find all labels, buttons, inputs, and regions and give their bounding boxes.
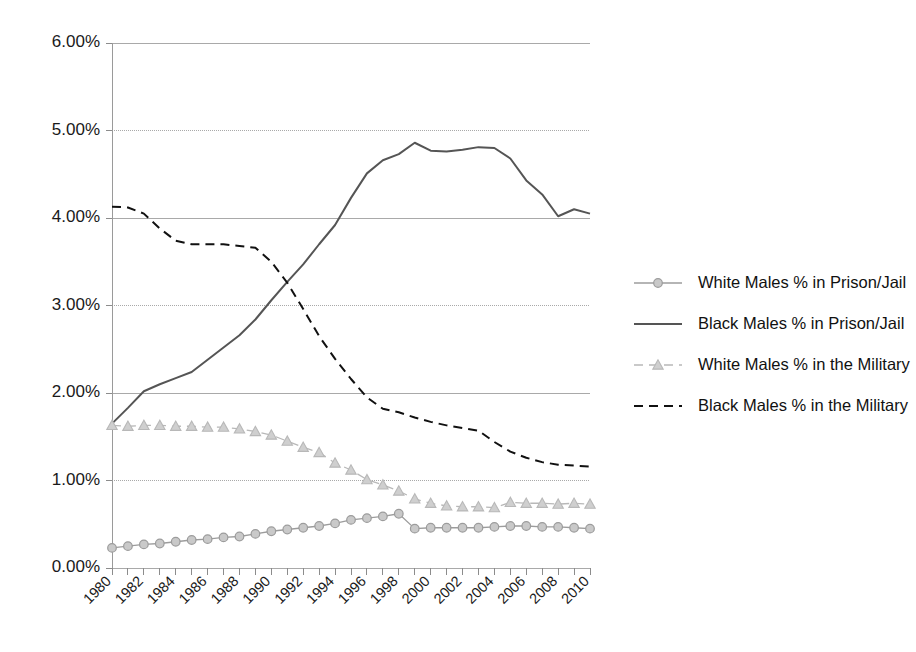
series-2 [107, 420, 595, 512]
data-point-marker [570, 523, 579, 532]
x-axis-tick-label: 2004 [462, 573, 496, 607]
data-point-marker [124, 542, 133, 551]
x-axis-tick-label: 1980 [80, 573, 114, 607]
data-point-marker [426, 523, 435, 532]
chart-legend: White Males % in Prison/JailBlack Males … [634, 273, 911, 414]
series-line [112, 143, 590, 424]
legend-item-2[interactable]: White Males % in the Military [634, 355, 911, 373]
x-axis-tick-label: 1996 [335, 573, 369, 607]
data-point-marker [395, 509, 404, 518]
data-point-marker [586, 524, 595, 533]
x-axis-tick-label: 2002 [431, 573, 465, 607]
x-axis-tick-label: 2010 [558, 573, 592, 607]
data-point-marker [282, 436, 292, 445]
series-1 [112, 143, 590, 424]
legend-label: Black Males % in Prison/Jail [698, 314, 904, 332]
data-point-marker [314, 447, 324, 456]
data-point-marker [654, 279, 663, 288]
data-point-marker [315, 522, 324, 531]
data-point-marker [522, 522, 531, 531]
data-point-marker [505, 497, 515, 506]
x-axis-tick-label: 2006 [494, 573, 528, 607]
data-point-marker [107, 420, 117, 429]
series-line [112, 207, 590, 467]
legend-item-1[interactable]: Black Males % in Prison/Jail [634, 314, 904, 332]
data-point-marker [140, 540, 149, 549]
x-axis-tick-label: 1992 [271, 573, 305, 607]
data-point-marker [251, 530, 260, 539]
data-point-marker [378, 480, 388, 489]
series-0 [108, 509, 595, 552]
y-axis-tick-label: 2.00% [52, 382, 100, 401]
data-point-marker [187, 536, 196, 545]
data-point-marker [538, 523, 547, 532]
data-point-marker [554, 523, 563, 532]
data-point-marker [569, 498, 579, 507]
data-point-marker [108, 544, 117, 553]
x-axis-tick-label: 1990 [239, 573, 273, 607]
data-point-marker [394, 486, 404, 495]
x-axis-tick-label: 2008 [526, 573, 560, 607]
y-axis-tick-label: 5.00% [52, 120, 100, 139]
y-axis-tick-label: 0.00% [52, 557, 100, 576]
y-axis-ticks [106, 43, 112, 568]
data-point-marker [298, 442, 308, 451]
series-3 [112, 207, 590, 467]
data-point-marker [155, 420, 165, 429]
data-point-marker [267, 527, 276, 536]
x-axis-tick-label: 1984 [144, 573, 178, 607]
data-point-marker [506, 522, 515, 531]
legend-label: Black Males % in the Military [698, 396, 909, 414]
data-point-marker [347, 516, 356, 525]
data-point-marker [474, 523, 483, 532]
data-series [107, 143, 595, 552]
data-point-marker [156, 539, 165, 548]
line-chart: 0.00%1.00%2.00%3.00%4.00%5.00%6.00% 1980… [0, 0, 916, 652]
data-point-marker [410, 494, 420, 503]
data-point-marker [283, 525, 292, 534]
x-axis-ticks [112, 568, 590, 575]
x-axis-labels: 1980198219841986198819901992199419961998… [80, 573, 592, 607]
data-point-marker [346, 465, 356, 474]
y-axis-tick-label: 4.00% [52, 207, 100, 226]
data-point-marker [235, 532, 244, 541]
data-point-marker [331, 519, 340, 528]
legend-label: White Males % in the Military [698, 355, 911, 373]
x-axis-tick-label: 1986 [176, 573, 210, 607]
data-point-marker [379, 512, 388, 521]
data-point-marker [203, 535, 212, 544]
x-axis-tick-label: 1998 [367, 573, 401, 607]
y-axis-tick-label: 1.00% [52, 470, 100, 489]
y-axis-tick-label: 6.00% [52, 32, 100, 51]
x-axis-tick-label: 1982 [112, 573, 146, 607]
legend-item-3[interactable]: Black Males % in the Military [634, 396, 909, 414]
data-point-marker [219, 533, 228, 542]
data-point-marker [490, 523, 499, 532]
x-axis-tick-label: 1988 [207, 573, 241, 607]
data-point-marker [458, 523, 467, 532]
y-axis-tick-label: 3.00% [52, 295, 100, 314]
gridlines [112, 43, 590, 568]
data-point-marker [410, 524, 419, 533]
data-point-marker [330, 458, 340, 467]
x-axis-tick-label: 1994 [303, 573, 337, 607]
data-point-marker [171, 537, 180, 546]
data-point-marker [442, 523, 451, 532]
legend-label: White Males % in Prison/Jail [698, 273, 906, 291]
y-axis-labels: 0.00%1.00%2.00%3.00%4.00%5.00%6.00% [52, 32, 100, 576]
x-axis-tick-label: 2000 [399, 573, 433, 607]
data-point-marker [299, 523, 308, 532]
chart-figure: 0.00%1.00%2.00%3.00%4.00%5.00%6.00% 1980… [0, 0, 916, 652]
data-point-marker [585, 499, 595, 508]
legend-item-0[interactable]: White Males % in Prison/Jail [634, 273, 906, 291]
data-point-marker [362, 474, 372, 483]
data-point-marker [363, 514, 372, 523]
